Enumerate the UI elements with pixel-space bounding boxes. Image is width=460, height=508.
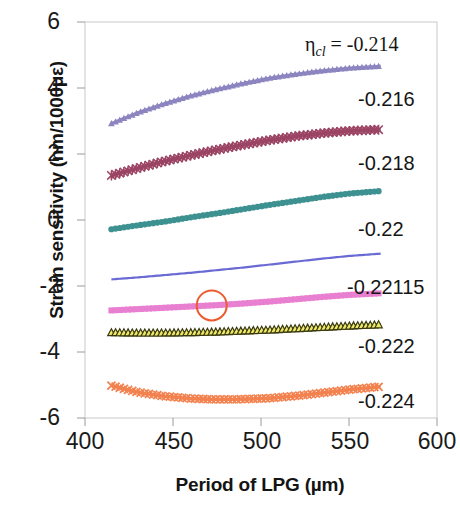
x-tick-label-500: 500 <box>227 428 297 455</box>
y-tick-label-0: 0 <box>14 206 60 233</box>
y-tick-label-2: 2 <box>14 140 60 167</box>
eta-equals-value: = -0.214 <box>331 33 399 55</box>
series-label-0.22115: -0.22115 <box>347 276 424 299</box>
x-tick-label-450: 450 <box>139 428 209 455</box>
x-axis-label-text: Period of LPG (µm) <box>176 474 345 495</box>
chart-figure: Strain sensitivity (nm/1000με) Period of… <box>0 0 460 508</box>
y-tick-label-minus2: -2 <box>14 272 60 299</box>
x-tick-label-600: 600 <box>402 428 460 455</box>
y-tick-label-4: 4 <box>14 74 60 101</box>
series-label-eta-0.214: ηcl = -0.214 <box>305 33 399 60</box>
y-tick-label-minus6: -6 <box>14 404 60 431</box>
eta-subscript: cl <box>315 44 325 59</box>
y-tick-label-6: 6 <box>14 8 60 35</box>
series-label-0.22: -0.22 <box>358 218 404 241</box>
x-axis-label: Period of LPG (µm) <box>70 474 450 496</box>
series-label-0.216: -0.216 <box>358 88 415 111</box>
eta-symbol: η <box>305 33 315 55</box>
x-tick-label-400: 400 <box>50 428 120 455</box>
x-tick-label-550: 550 <box>315 428 385 455</box>
series-label-0.222: -0.222 <box>358 335 415 358</box>
y-tick-label-minus4: -4 <box>14 338 60 365</box>
series-label-0.224: -0.224 <box>358 390 415 413</box>
data-point-marker <box>375 188 381 194</box>
series-label-0.218: -0.218 <box>358 152 415 175</box>
